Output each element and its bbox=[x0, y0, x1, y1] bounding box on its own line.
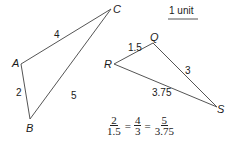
fraction-2: 4 3 bbox=[134, 115, 142, 136]
vertex-b-label: B bbox=[26, 123, 33, 133]
vertex-r-label: R bbox=[104, 59, 112, 69]
fraction-3-denominator: 3.75 bbox=[154, 126, 175, 136]
side-rs-label: 3.75 bbox=[152, 88, 171, 98]
fraction-1: 2 1.5 bbox=[106, 115, 122, 136]
side-bc-label: 5 bbox=[71, 91, 77, 101]
vertex-a-label: A bbox=[12, 58, 19, 68]
side-ab-label: 2 bbox=[16, 88, 22, 98]
triangle-abc bbox=[21, 9, 111, 119]
vertex-q-label: Q bbox=[150, 32, 159, 42]
equals-sign: = bbox=[144, 120, 150, 132]
side-ac-label: 4 bbox=[54, 30, 60, 40]
fraction-1-denominator: 1.5 bbox=[106, 126, 122, 136]
side-rq-label: 1.5 bbox=[128, 43, 142, 53]
fraction-3: 5 3.75 bbox=[154, 115, 175, 136]
fraction-2-denominator: 3 bbox=[134, 126, 142, 136]
equals-sign: = bbox=[125, 120, 131, 132]
unit-scale-label: 1 unit bbox=[169, 6, 193, 16]
vertex-c-label: C bbox=[113, 4, 121, 14]
vertex-s-label: S bbox=[217, 104, 224, 114]
side-qs-label: 3 bbox=[185, 66, 191, 76]
proportion-equation: 2 1.5 = 4 3 = 5 3.75 bbox=[106, 115, 175, 136]
